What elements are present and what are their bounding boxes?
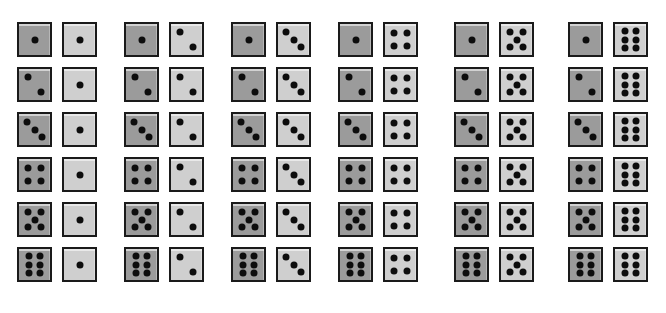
die-right-value-2: [169, 247, 204, 282]
pip: [190, 133, 197, 140]
pip: [520, 119, 527, 126]
dice-pair-3-1: [17, 112, 106, 149]
pip: [346, 269, 353, 276]
pip: [621, 73, 628, 80]
pip: [513, 126, 520, 133]
pip: [25, 269, 32, 276]
pip: [633, 44, 640, 51]
pip: [475, 209, 482, 216]
pip: [290, 36, 297, 43]
die-right-value-2: [169, 202, 204, 237]
pip: [76, 126, 83, 133]
die-right-value-3: [276, 247, 311, 282]
dice-pair-5-4: [338, 202, 427, 239]
pip: [403, 29, 410, 36]
pip: [346, 164, 353, 171]
dice-sample-space-board: [0, 0, 666, 313]
pip: [633, 134, 640, 141]
pip: [575, 223, 582, 230]
pip: [621, 44, 628, 51]
pip: [506, 88, 513, 95]
pip: [359, 88, 366, 95]
pip: [520, 88, 527, 95]
pip: [475, 223, 482, 230]
pip: [290, 81, 297, 88]
pip: [345, 223, 352, 230]
die-right-value-3: [276, 202, 311, 237]
pip: [144, 253, 151, 260]
pip: [588, 178, 595, 185]
die-left-value-1: [17, 22, 52, 57]
pip: [633, 261, 640, 268]
dice-pair-4-4: [338, 157, 427, 194]
dice-pair-4-1: [17, 157, 106, 194]
die-right-value-1: [62, 202, 97, 237]
die-left-value-4: [124, 157, 159, 192]
dice-pair-2-2: [124, 67, 213, 104]
pip: [190, 178, 197, 185]
pip: [24, 118, 31, 125]
dice-pair-1-4: [338, 22, 427, 59]
die-left-value-6: [124, 247, 159, 282]
pip: [283, 253, 290, 260]
pip: [403, 133, 410, 140]
pip: [238, 74, 245, 81]
pip: [520, 209, 527, 216]
pip: [391, 209, 398, 216]
pip: [190, 43, 197, 50]
dice-pair-3-5: [454, 112, 543, 149]
pip: [475, 88, 482, 95]
dice-pair-4-3: [231, 157, 320, 194]
pip: [283, 208, 290, 215]
pip: [76, 216, 83, 223]
pip: [621, 269, 628, 276]
pip: [582, 126, 589, 133]
die-right-value-2: [169, 112, 204, 147]
die-left-value-3: [17, 112, 52, 147]
pip: [145, 88, 152, 95]
die-right-value-6: [613, 157, 648, 192]
die-right-value-4: [383, 157, 418, 192]
pip: [37, 178, 44, 185]
die-left-value-1: [568, 22, 603, 57]
die-left-value-5: [231, 202, 266, 237]
pip: [589, 209, 596, 216]
pip: [144, 261, 151, 268]
die-left-value-6: [568, 247, 603, 282]
pip: [520, 178, 527, 185]
pip: [358, 269, 365, 276]
pip: [576, 178, 583, 185]
die-left-value-1: [338, 22, 373, 57]
pip: [621, 179, 628, 186]
pip: [506, 133, 513, 140]
die-right-value-5: [499, 67, 534, 102]
pip: [132, 269, 139, 276]
dice-pair-4-6: [568, 157, 657, 194]
pip: [346, 261, 353, 268]
pip: [132, 164, 139, 171]
die-right-value-6: [613, 67, 648, 102]
pip: [297, 224, 304, 231]
pip: [589, 134, 596, 141]
pip: [238, 209, 245, 216]
pip: [252, 209, 259, 216]
die-right-value-5: [499, 112, 534, 147]
pip: [506, 29, 513, 36]
pip: [359, 223, 366, 230]
pip: [31, 216, 38, 223]
pip: [239, 164, 246, 171]
pip: [520, 43, 527, 50]
die-left-value-3: [124, 112, 159, 147]
pip: [462, 261, 469, 268]
pip: [633, 81, 640, 88]
pip: [520, 29, 527, 36]
die-right-value-5: [499, 247, 534, 282]
pip: [506, 74, 513, 81]
die-right-value-4: [383, 67, 418, 102]
die-left-value-3: [338, 112, 373, 147]
pip: [238, 118, 245, 125]
pip: [290, 171, 297, 178]
pip: [297, 269, 304, 276]
pip: [474, 253, 481, 260]
die-left-value-2: [338, 67, 373, 102]
